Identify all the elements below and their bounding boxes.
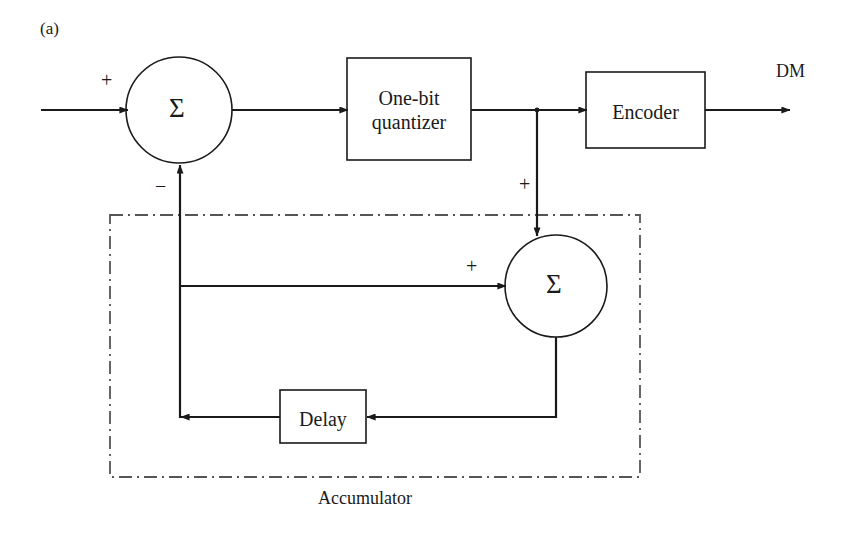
- quantizer-label-line2: quantizer: [347, 110, 471, 134]
- sign-plus-sum-bottom-left: +: [466, 256, 477, 276]
- delay-block-label: Delay: [280, 407, 366, 431]
- output-label-dm: DM: [776, 62, 805, 80]
- quantizer-block-label: One-bit quantizer: [347, 86, 471, 135]
- sum-top-symbol: Σ: [169, 95, 185, 122]
- diagram-canvas: [0, 0, 844, 541]
- sum-bottom-symbol: Σ: [546, 271, 562, 298]
- accumulator-caption: Accumulator: [318, 489, 412, 507]
- sign-minus-sum-top: −: [155, 176, 166, 196]
- encoder-block-label: Encoder: [586, 100, 705, 124]
- quantizer-label-line1: One-bit: [347, 86, 471, 110]
- panel-tag: (a): [40, 20, 59, 37]
- delta-modulation-block-diagram: (a) + − Σ Σ + + One-bit quantizer Encode…: [0, 0, 844, 541]
- sign-plus-sum-top: +: [101, 70, 112, 90]
- sign-plus-sum-bottom-top: +: [519, 174, 530, 194]
